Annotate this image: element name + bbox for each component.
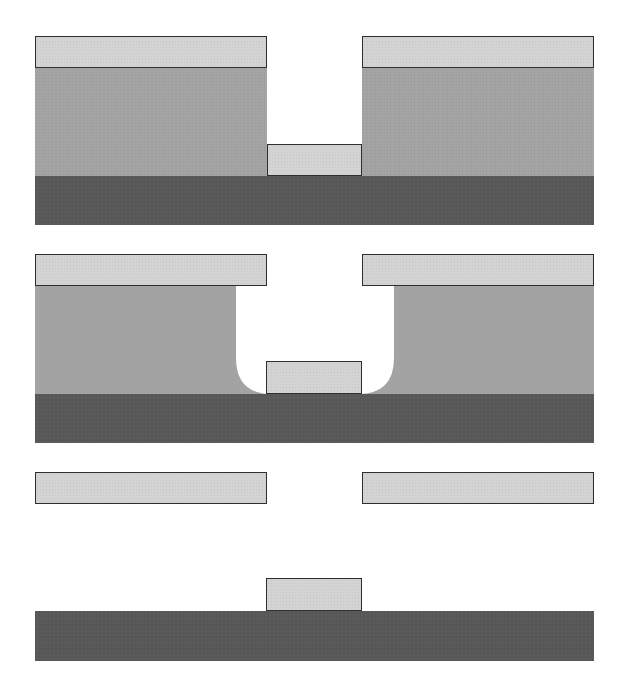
sacrificial-layer [362,68,594,176]
cap-layer [362,254,594,286]
substrate-layer [35,394,594,443]
deposit-layer [266,578,362,611]
sacrificial-layer [35,68,267,176]
substrate-layer [35,611,594,661]
cap-layer [362,472,594,504]
cap-layer [362,36,594,68]
cap-layer [35,36,267,68]
deposit-layer [267,144,362,176]
substrate-layer [35,176,594,225]
deposit-layer [266,361,362,394]
cap-layer [35,254,267,286]
cap-layer [35,472,267,504]
